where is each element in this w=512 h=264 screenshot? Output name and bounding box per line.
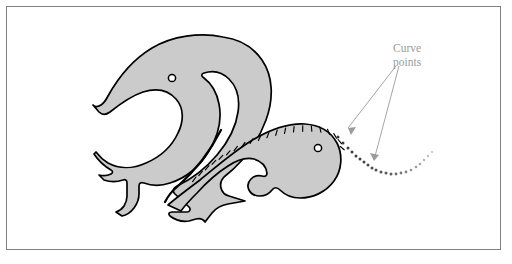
curve-points-label-line1: Curve — [393, 42, 421, 54]
figure-page: Curve points — [0, 0, 512, 264]
illustration-canvas: Curve points — [0, 0, 512, 264]
eye-lower-head — [314, 144, 321, 151]
curve-points-label-line2: points — [393, 56, 422, 69]
eye-upper-head — [168, 74, 175, 81]
